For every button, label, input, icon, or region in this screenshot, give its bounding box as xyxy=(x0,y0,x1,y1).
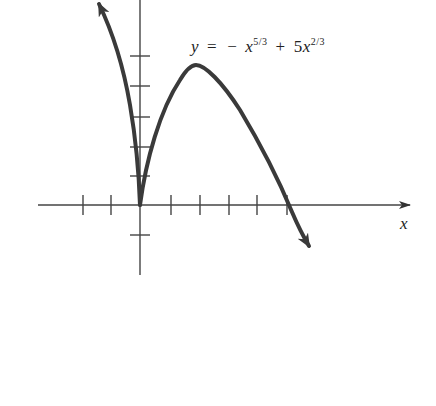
equation-minus: − xyxy=(227,37,237,56)
equation-equals: = xyxy=(207,37,217,56)
equation-lhs: y xyxy=(191,37,199,56)
equation-plus: + xyxy=(276,37,286,56)
equation-label: y=−x5/3+5x2/3 xyxy=(191,36,325,57)
equation-term1-exp: 5/3 xyxy=(253,36,267,47)
function-plot xyxy=(0,0,436,406)
equation-term2-coef: 5 xyxy=(294,37,303,56)
curve-right-branch xyxy=(140,65,309,246)
equation-term2-exp: 2/3 xyxy=(311,36,325,47)
x-axis-label: x xyxy=(400,214,408,234)
curve-left-branch xyxy=(99,4,140,205)
equation-term2-base: x xyxy=(303,37,311,56)
